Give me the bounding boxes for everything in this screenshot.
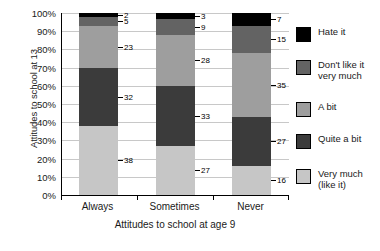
leader-line (118, 47, 123, 48)
leader-line (271, 141, 276, 142)
bar-segment[interactable] (232, 13, 271, 26)
x-tick-mark (61, 195, 62, 200)
leader-line (118, 15, 123, 16)
y-tick-label: 80% (10, 44, 56, 55)
legend-item[interactable]: Very much (like it) (296, 168, 363, 190)
segment-value-label: 32 (124, 92, 133, 101)
x-tick-mark (213, 195, 214, 200)
y-axis-ticks: 0%10%20%30%40%50%60%70%80%90%100% (10, 13, 56, 195)
legend-label: Hate it (318, 26, 345, 37)
leader-line (195, 116, 200, 117)
bar-segment[interactable] (79, 17, 118, 26)
legend-swatch-icon (296, 27, 311, 42)
y-tick-label: 90% (10, 26, 56, 37)
segment-value-label: 7 (277, 15, 281, 24)
segment-value-label: 2 (124, 10, 128, 19)
segment-value-label: 27 (201, 166, 210, 175)
y-tick-label: 60% (10, 80, 56, 91)
legend-label: Quite a bit (318, 133, 361, 144)
legend-swatch-icon (296, 169, 311, 184)
legend-item[interactable]: A bit (296, 101, 337, 117)
bar-segment[interactable] (79, 126, 118, 195)
bar-segment[interactable] (232, 53, 271, 117)
bar-segment[interactable] (79, 26, 118, 68)
bar-segment[interactable] (232, 117, 271, 166)
legend-label: Very much (like it) (318, 168, 363, 190)
legend-swatch-icon (296, 134, 311, 149)
y-tick-label: 0% (10, 190, 56, 201)
leader-line (195, 16, 200, 17)
x-tick-mark (288, 195, 289, 200)
y-tick-label: 10% (10, 171, 56, 182)
leader-line (195, 170, 200, 171)
bar-always[interactable] (79, 13, 118, 195)
y-tick-label: 100% (10, 8, 56, 19)
bar-segment[interactable] (232, 26, 271, 53)
segment-value-label: 38 (124, 156, 133, 165)
leader-line (118, 21, 123, 22)
bar-sometimes[interactable] (156, 13, 195, 195)
legend-item[interactable]: Hate it (296, 26, 345, 42)
x-category-label-sometimes: Sometimes (135, 201, 215, 212)
x-axis-title: Attitudes to school at age 9 (61, 219, 289, 230)
y-tick-label: 70% (10, 62, 56, 73)
segment-value-label: 33 (201, 111, 210, 120)
y-tick-label: 30% (10, 135, 56, 146)
bar-segment[interactable] (79, 68, 118, 126)
x-category-label-always: Always (58, 201, 138, 212)
legend-swatch-icon (296, 60, 311, 75)
legend-item[interactable]: Don't like it very much (296, 59, 364, 81)
legend-swatch-icon (296, 102, 311, 117)
legend-label: A bit (318, 101, 337, 112)
y-tick-label: 40% (10, 117, 56, 128)
bar-segment[interactable] (156, 146, 195, 195)
leader-line (195, 27, 200, 28)
leader-line (271, 180, 276, 181)
leader-line (118, 160, 123, 161)
x-tick-mark (137, 195, 138, 200)
segment-value-label: 9 (201, 22, 205, 31)
legend-item[interactable]: Quite a bit (296, 133, 361, 149)
leader-line (118, 97, 123, 98)
leader-line (195, 60, 200, 61)
leader-line (271, 39, 276, 40)
x-category-label-never: Never (211, 201, 291, 212)
leader-line (271, 19, 276, 20)
bar-segment[interactable] (156, 35, 195, 86)
bar-segment[interactable] (156, 19, 195, 35)
y-tick-label: 20% (10, 153, 56, 164)
legend-label: Don't like it very much (318, 59, 364, 81)
segment-value-label: 15 (277, 35, 286, 44)
bar-segment[interactable] (156, 86, 195, 146)
bar-never[interactable] (232, 13, 271, 195)
y-tick-label: 50% (10, 99, 56, 110)
segment-value-label: 28 (201, 56, 210, 65)
stacked-bar-chart: Attitudes to school at 13 0%10%20%30%40%… (0, 0, 380, 251)
segment-value-label: 5 (124, 17, 128, 26)
bar-segment[interactable] (232, 166, 271, 195)
plot-area: 3832235227332893162735157 (61, 13, 289, 196)
